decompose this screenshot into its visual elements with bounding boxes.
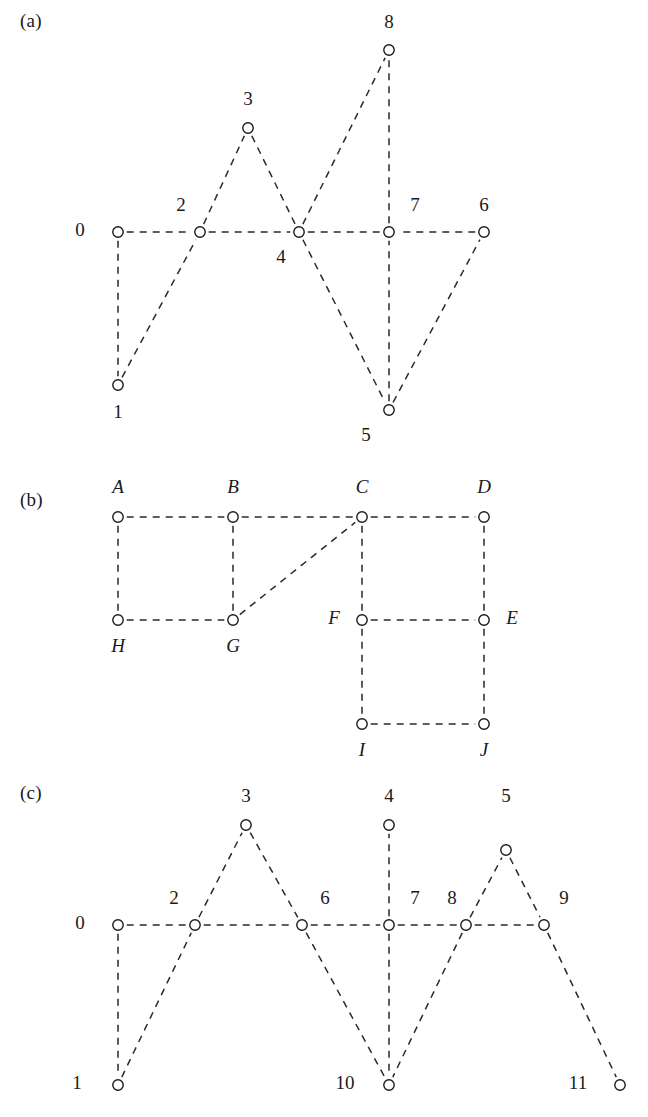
- graph-node-label-I: I: [358, 739, 367, 760]
- graph-node-label-7: 7: [410, 887, 420, 908]
- graph-node-7[interactable]: [384, 227, 394, 237]
- graph-node-A[interactable]: [113, 512, 123, 522]
- graph-node-I[interactable]: [357, 719, 367, 729]
- graph-edge: [122, 933, 191, 1077]
- panel-b-graph: ABCDHGFEIJ: [0, 465, 648, 760]
- graph-node-label-5: 5: [361, 424, 371, 445]
- graph-node-1[interactable]: [113, 380, 123, 390]
- graph-node-label-4: 4: [384, 785, 394, 806]
- graph-node-label-5: 5: [501, 785, 511, 806]
- graph-node-9[interactable]: [539, 920, 549, 930]
- graph-node-label-6: 6: [320, 887, 330, 908]
- graph-node-label-G: G: [226, 635, 240, 656]
- graph-node-8[interactable]: [461, 920, 471, 930]
- graph-node-label-C: C: [356, 476, 369, 497]
- graph-node-label-D: D: [476, 476, 491, 497]
- graph-node-6[interactable]: [479, 227, 489, 237]
- graph-node-label-E: E: [505, 607, 518, 628]
- graph-node-label-7: 7: [410, 194, 420, 215]
- graph-edge: [548, 933, 617, 1077]
- panel-a: (a) 012345678: [0, 0, 648, 465]
- graph-node-label-8: 8: [384, 11, 394, 32]
- graph-node-H[interactable]: [113, 615, 123, 625]
- graph-node-label-1: 1: [113, 401, 123, 422]
- graph-node-2[interactable]: [190, 920, 200, 930]
- graph-node-0[interactable]: [113, 920, 123, 930]
- graph-edge: [393, 240, 480, 403]
- graph-node-label-3: 3: [241, 785, 251, 806]
- graph-node-label-H: H: [110, 635, 126, 656]
- graph-node-label-4: 4: [276, 246, 286, 267]
- graph-edge: [303, 240, 385, 402]
- graph-node-10[interactable]: [384, 1080, 394, 1090]
- panel-c: (c) 01234567891011: [0, 760, 648, 1117]
- graph-node-label-9: 9: [559, 887, 569, 908]
- graph-node-label-10: 10: [336, 1072, 355, 1093]
- graph-node-label-F: F: [327, 607, 340, 628]
- graph-node-label-A: A: [110, 476, 124, 497]
- graph-edge: [122, 240, 196, 378]
- graph-node-4[interactable]: [294, 227, 304, 237]
- graph-node-8[interactable]: [384, 45, 394, 55]
- graph-node-label-B: B: [227, 476, 239, 497]
- graph-node-2[interactable]: [195, 227, 205, 237]
- graph-node-7[interactable]: [384, 920, 394, 930]
- graph-node-label-J: J: [480, 739, 490, 760]
- graph-edge: [240, 522, 355, 614]
- graph-node-6[interactable]: [297, 920, 307, 930]
- graph-node-label-2: 2: [176, 194, 186, 215]
- graph-node-label-0: 0: [75, 912, 85, 933]
- graph-node-label-2: 2: [169, 887, 179, 908]
- panel-c-graph: 01234567891011: [0, 760, 648, 1117]
- graph-node-0[interactable]: [113, 227, 123, 237]
- graph-edge: [303, 58, 385, 224]
- graph-node-F[interactable]: [357, 615, 367, 625]
- graph-node-D[interactable]: [479, 512, 489, 522]
- graph-node-3[interactable]: [243, 123, 253, 133]
- graph-node-E[interactable]: [479, 615, 489, 625]
- panel-b: (b) ABCDHGFEIJ: [0, 465, 648, 760]
- graph-node-5[interactable]: [384, 405, 394, 415]
- graph-node-C[interactable]: [357, 512, 367, 522]
- panel-a-graph: 012345678: [0, 0, 648, 465]
- graph-node-label-11: 11: [569, 1072, 587, 1093]
- graph-edge: [393, 933, 462, 1077]
- graph-edge: [470, 858, 502, 918]
- graph-edge: [250, 833, 297, 918]
- figure-page: (a) 012345678 (b) ABCDHGFEIJ (c) 0123456…: [0, 0, 648, 1117]
- graph-node-label-0: 0: [75, 219, 85, 240]
- graph-edge: [199, 833, 242, 917]
- graph-edge: [306, 933, 385, 1078]
- graph-node-label-3: 3: [243, 88, 253, 109]
- graph-node-4[interactable]: [384, 820, 394, 830]
- graph-node-11[interactable]: [615, 1080, 625, 1090]
- graph-node-3[interactable]: [241, 820, 251, 830]
- graph-edge: [204, 136, 245, 224]
- graph-node-B[interactable]: [228, 512, 238, 522]
- graph-node-5[interactable]: [501, 845, 511, 855]
- graph-node-label-6: 6: [479, 194, 489, 215]
- graph-node-J[interactable]: [479, 719, 489, 729]
- graph-node-G[interactable]: [228, 615, 238, 625]
- graph-edge: [252, 136, 295, 224]
- graph-edge: [510, 858, 540, 917]
- graph-node-label-1: 1: [72, 1072, 82, 1093]
- graph-node-label-8: 8: [447, 887, 457, 908]
- graph-node-1[interactable]: [113, 1080, 123, 1090]
